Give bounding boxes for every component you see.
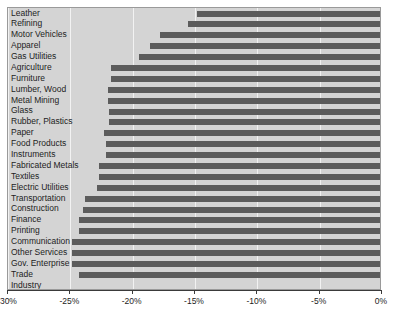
bar-row: Food Products — [8, 139, 380, 150]
bar — [188, 21, 381, 27]
bar — [99, 163, 381, 169]
x-tick-label: -25% — [59, 296, 79, 306]
bar-row: Transportation — [8, 193, 380, 204]
category-label: Fabricated Metals — [11, 160, 79, 171]
bar-row: Printing — [8, 226, 380, 237]
x-tick — [132, 290, 133, 294]
bar-row: Instruments — [8, 150, 380, 161]
bar-chart: LeatherRefiningMotor VehiclesApparelGas … — [0, 0, 396, 315]
x-tick — [319, 290, 320, 294]
bar — [97, 185, 382, 191]
bar — [79, 228, 381, 234]
category-label: Other Services — [11, 247, 67, 258]
bar-row: Apparel — [8, 41, 380, 52]
category-label: Trade — [11, 269, 33, 280]
category-label: Construction — [11, 203, 59, 214]
bar-row: Finance — [8, 215, 380, 226]
bar — [106, 141, 381, 147]
category-label: Transportation — [11, 193, 66, 204]
category-label: Industry — [11, 280, 41, 290]
bar-row: Lumber, Wood — [8, 84, 380, 95]
bar — [108, 98, 381, 104]
category-label: Electric Utilities — [11, 182, 69, 193]
x-tick — [194, 290, 195, 294]
bar — [79, 217, 381, 223]
category-label: Gas Utilities — [11, 51, 56, 62]
bar — [106, 152, 381, 158]
plot-area: LeatherRefiningMotor VehiclesApparelGas … — [7, 7, 381, 290]
bar-row: Rubber, Plastics — [8, 117, 380, 128]
category-label: Refining — [11, 18, 42, 29]
bar — [85, 196, 381, 202]
bar — [197, 11, 381, 17]
bar — [150, 43, 381, 49]
bar-row: Furniture — [8, 73, 380, 84]
category-label: Agriculture — [11, 62, 52, 73]
x-tick-label: -10% — [246, 296, 266, 306]
category-label: Instruments — [11, 149, 55, 160]
bar-row: Communication — [8, 237, 380, 248]
category-label: Communication — [11, 236, 70, 247]
category-label: Motor Vehicles — [11, 29, 67, 40]
x-tick — [69, 290, 70, 294]
bar — [109, 119, 381, 125]
bar — [72, 261, 381, 267]
bar — [109, 109, 381, 115]
category-label: Finance — [11, 214, 41, 225]
bar-row: Fabricated Metals — [8, 160, 380, 171]
x-tick-label: 0% — [375, 296, 387, 306]
x-tick-label: -30% — [0, 296, 17, 306]
bar — [111, 76, 381, 82]
category-label: Food Products — [11, 138, 66, 149]
x-tick — [7, 290, 8, 294]
category-label: Apparel — [11, 40, 40, 51]
x-axis: -30%-25%-20%-15%-10%-5%0% — [7, 290, 381, 315]
category-label: Printing — [11, 225, 40, 236]
bar-row: Metal Mining — [8, 95, 380, 106]
bar-row: Industry — [8, 280, 380, 290]
bar-row: Paper — [8, 128, 380, 139]
bar — [104, 130, 381, 136]
bar-row: Gov. Enterprise — [8, 258, 380, 269]
bar — [111, 65, 381, 71]
category-label: Textiles — [11, 171, 39, 182]
bar — [83, 207, 381, 213]
category-label: Rubber, Plastics — [11, 116, 72, 127]
category-label: Paper — [11, 127, 34, 138]
bar-row: Gas Utilities — [8, 52, 380, 63]
bar-row: Electric Utilities — [8, 182, 380, 193]
x-tick-label: -20% — [122, 296, 142, 306]
bar-row: Trade — [8, 269, 380, 280]
category-label: Leather — [11, 8, 40, 19]
x-tick-label: -15% — [184, 296, 204, 306]
bar — [99, 174, 381, 180]
bar — [79, 272, 381, 278]
bar-row: Refining — [8, 19, 380, 30]
bar-row: Construction — [8, 204, 380, 215]
bar — [139, 54, 381, 60]
bar-row: Textiles — [8, 171, 380, 182]
bar-row: Other Services — [8, 247, 380, 258]
bar-row: Agriculture — [8, 62, 380, 73]
bar — [108, 87, 381, 93]
bar-row: Glass — [8, 106, 380, 117]
category-label: Metal Mining — [11, 95, 59, 106]
bar-row: Motor Vehicles — [8, 30, 380, 41]
category-label: Glass — [11, 105, 33, 116]
category-label: Lumber, Wood — [11, 84, 66, 95]
x-tick-label: -5% — [311, 296, 326, 306]
category-label: Gov. Enterprise — [11, 258, 69, 269]
bar — [72, 239, 381, 245]
bar — [72, 250, 381, 256]
bar — [160, 32, 381, 38]
x-tick — [256, 290, 257, 294]
category-label: Furniture — [11, 73, 45, 84]
bar-row: Leather — [8, 8, 380, 19]
x-tick — [381, 290, 382, 294]
